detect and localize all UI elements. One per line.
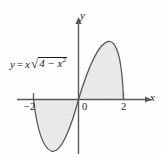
y-axis-label: y <box>80 10 85 21</box>
plot-canvas <box>0 0 162 154</box>
x-axis-label: x <box>150 92 155 103</box>
origin-label: 0 <box>82 102 87 113</box>
radicand-exponent: 2 <box>62 56 66 64</box>
x-tick-label-neg2: −2 <box>24 102 35 113</box>
radical-sign-icon: √ <box>31 56 38 71</box>
x-tick-label-pos2: 2 <box>121 102 126 113</box>
equation-equals: = <box>15 58 25 70</box>
equation-annotation: y=x√4 − x2 <box>10 57 67 70</box>
shaded-region-left <box>34 100 79 152</box>
radicand: 4 − x2 <box>38 57 67 69</box>
radical-group: √4 − x2 <box>30 57 67 70</box>
function-graph-figure: y x −2 0 2 y=x√4 − x2 <box>0 0 162 154</box>
radicand-expression: 4 − x <box>39 57 62 69</box>
